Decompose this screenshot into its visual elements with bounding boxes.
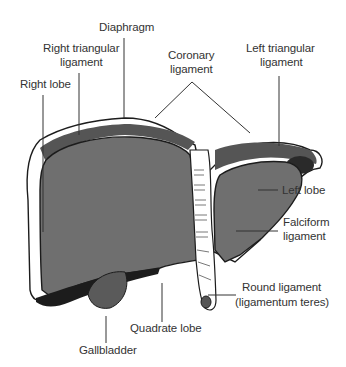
label-left-lobe: Left lobe	[282, 184, 325, 196]
label-quadrate-lobe: Quadrate lobe	[130, 322, 202, 334]
label-coronary-line2: ligament	[170, 63, 214, 75]
label-right-lobe: Right lobe	[20, 78, 71, 90]
round-ligament-tip	[201, 296, 211, 308]
label-round-ligament-line1: Round ligament	[242, 281, 322, 293]
label-right-triangular-line1: Right triangular	[43, 42, 120, 54]
label-falciform-line2: ligament	[283, 230, 327, 242]
label-gallbladder: Gallbladder	[79, 344, 137, 356]
liver-anatomy-diagram: Diaphragm Right triangular ligament Coro…	[0, 0, 346, 367]
label-round-ligament-line2: (ligamentum teres)	[235, 296, 329, 308]
left-lobe-shape	[214, 162, 302, 262]
label-falciform-line1: Falciform	[283, 216, 329, 228]
label-right-triangular-line2: ligament	[60, 56, 104, 68]
label-diaphragm: Diaphragm	[99, 21, 154, 33]
label-coronary-line1: Coronary	[168, 49, 215, 61]
label-left-triangular-line1: Left triangular	[246, 42, 315, 54]
label-left-triangular-line2: ligament	[260, 56, 304, 68]
